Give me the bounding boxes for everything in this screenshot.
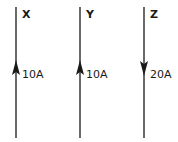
current-label-y: 10A — [86, 68, 108, 81]
wire-label-y: Y — [85, 8, 95, 21]
wire-label-x: X — [22, 8, 31, 21]
wire-x: X 10A — [12, 7, 44, 138]
wire-z: Z 20A — [140, 7, 172, 138]
current-label-x: 10A — [22, 68, 44, 81]
current-label-z: 20A — [150, 68, 172, 81]
parallel-wires-diagram: X 10A Y 10A Z 20A — [0, 0, 178, 142]
wire-y: Y 10A — [76, 7, 108, 138]
wire-label-z: Z — [150, 8, 158, 21]
